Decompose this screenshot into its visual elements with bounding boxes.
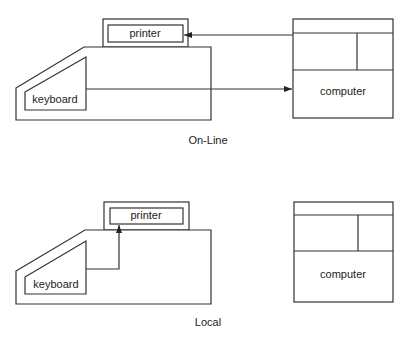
online-terminal: printer keyboard	[16, 19, 211, 120]
printer-label: printer	[130, 209, 162, 221]
computer-box	[294, 202, 393, 302]
diagram-canvas: printer keyboard computer On-Line printe…	[0, 0, 418, 343]
online-caption: On-Line	[188, 134, 227, 146]
computer-label: computer	[320, 85, 366, 97]
keyboard-label: keyboard	[33, 278, 78, 290]
online-computer: computer	[293, 19, 393, 118]
computer-label: computer	[320, 268, 366, 280]
computer-box	[293, 19, 393, 118]
keyboard-label: keyboard	[32, 93, 77, 105]
local-diagram: printer keyboard computer Local	[16, 202, 393, 328]
local-computer: computer	[294, 202, 393, 302]
online-diagram: printer keyboard computer On-Line	[16, 19, 393, 146]
local-terminal: printer keyboard	[16, 202, 211, 304]
printer-label: printer	[129, 27, 161, 39]
local-caption: Local	[195, 316, 221, 328]
